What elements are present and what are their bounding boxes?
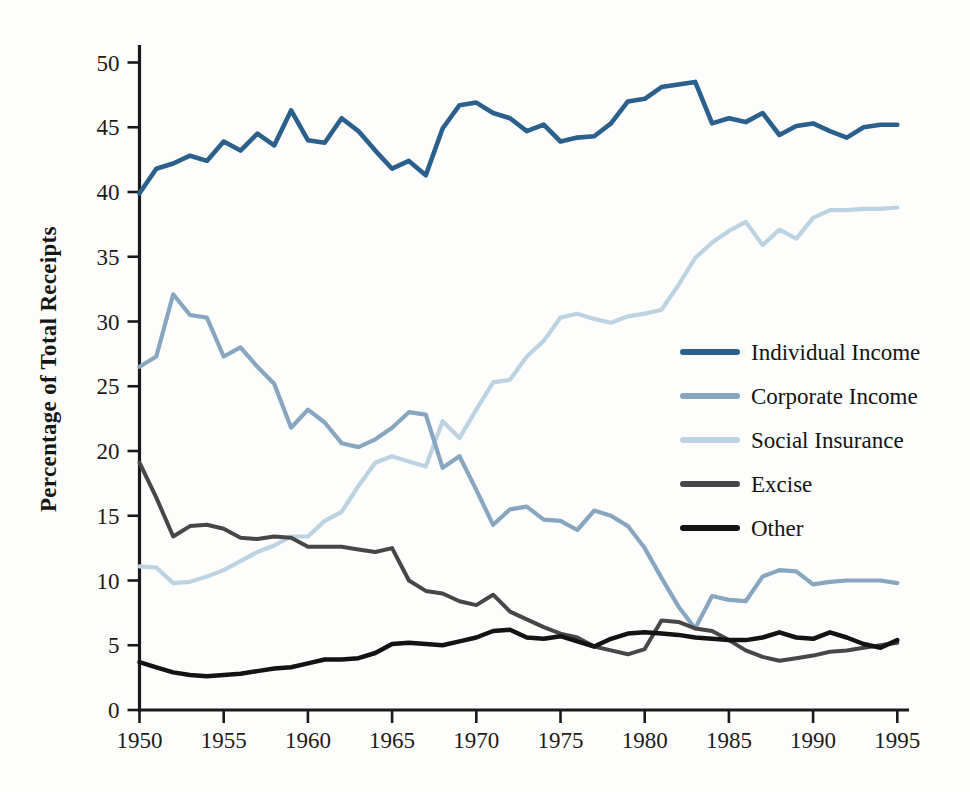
legend-item-corporate-income: Corporate Income [683,384,918,409]
legend-label-individual-income: Individual Income [751,340,920,365]
x-tick-label-1955: 1955 [201,728,247,753]
y-tick-label-0: 0 [108,698,120,723]
y-tick-label-40: 40 [97,180,120,205]
y-tick-label-25: 25 [97,374,120,399]
y-tick-label-45: 45 [97,115,120,140]
legend-label-other: Other [751,516,804,541]
series-lines [140,82,898,676]
legend: Individual IncomeCorporate IncomeSocial … [683,340,920,541]
x-tick-label-1950: 1950 [117,728,163,753]
x-tick-label-1970: 1970 [453,728,499,753]
y-tick-label-35: 35 [97,245,120,270]
x-tick-label-1990: 1990 [790,728,836,753]
x-tick-label-1985: 1985 [706,728,752,753]
y-tick-label-30: 30 [97,310,120,335]
series-line-other [140,630,898,677]
y-tick-label-15: 15 [97,504,120,529]
y-tick-label-5: 5 [108,633,120,658]
x-tick-label-1995: 1995 [874,728,920,753]
legend-label-corporate-income: Corporate Income [751,384,918,409]
y-axis-title: Percentage of Total Receipts [36,226,61,512]
y-tick-label-50: 50 [97,51,120,76]
y-tick-label-20: 20 [97,439,120,464]
y-tick-label-10: 10 [97,569,120,594]
x-tick-label-1980: 1980 [622,728,668,753]
legend-item-other: Other [683,516,804,541]
legend-label-social-insurance: Social Insurance [751,428,904,453]
receipts-line-chart: 0510152025303540455019501955196019651970… [0,0,970,792]
legend-label-excise: Excise [751,472,812,497]
x-tick-label-1960: 1960 [285,728,331,753]
legend-item-social-insurance: Social Insurance [683,428,904,453]
legend-item-individual-income: Individual Income [683,340,920,365]
x-tick-label-1965: 1965 [369,728,415,753]
x-tick-label-1975: 1975 [538,728,584,753]
series-line-individual-income [140,82,898,193]
legend-item-excise: Excise [683,472,812,497]
chart-page: 0510152025303540455019501955196019651970… [0,0,970,792]
